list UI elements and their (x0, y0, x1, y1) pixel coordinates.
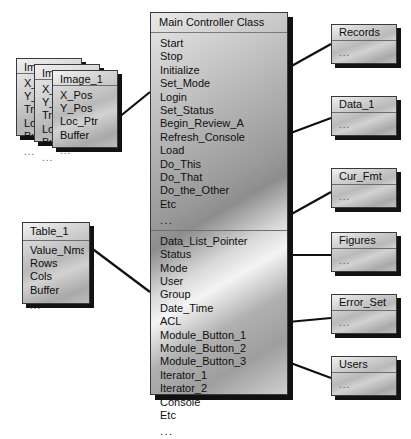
method-item: Etc (160, 198, 281, 211)
attribute-item: User (160, 275, 281, 288)
field-ellipsis: ... (30, 297, 84, 312)
table-1-title: Table_1 (23, 223, 89, 241)
attribute-item: Data_List_Pointer (160, 235, 281, 248)
main-class-attributes-section: Data_List_Pointer Status Mode User Group… (151, 231, 287, 439)
connector-main-to-error-set (288, 318, 331, 322)
users-title: Users (332, 357, 396, 373)
field-item: X_Pos (60, 89, 112, 102)
field-item: Value_Nms (30, 244, 84, 257)
attribute-item: Etc (160, 409, 281, 422)
figures-body: ... (332, 249, 396, 271)
method-item: Set_Mode (160, 77, 281, 90)
data-1-title: Data_1 (332, 97, 396, 113)
figures-class-box[interactable]: Figures ... (331, 232, 397, 272)
table-1-fields: Value_Nms Rows Cols Buffer ... (23, 241, 89, 314)
table-1-class-box[interactable]: Table_1 Value_Nms Rows Cols Buffer ... (22, 222, 90, 304)
image-1-fields: X_Pos Y_Pos Loc_Ptr Buffer ... (53, 86, 117, 159)
method-item: Stop (160, 50, 281, 63)
attribute-item: ACL (160, 315, 281, 328)
data-1-class-box[interactable]: Data_1 ... (331, 96, 397, 136)
users-body: ... (332, 373, 396, 395)
attribute-item: Module_Button_3 (160, 355, 281, 368)
error-set-class-box[interactable]: Error_Set ... (331, 294, 397, 334)
field-item: Rows (30, 257, 84, 270)
cur-fmt-ellipsis: ... (339, 188, 391, 203)
users-class-box[interactable]: Users ... (331, 356, 397, 396)
field-item: Y_Pos (60, 102, 112, 115)
figures-title: Figures (332, 233, 396, 249)
attribute-item: Iterator_2 (160, 382, 281, 395)
error-set-body: ... (332, 311, 396, 333)
attribute-item: Date_Time (160, 302, 281, 315)
connector-image-to-main (118, 92, 150, 118)
method-item: Do_That (160, 171, 281, 184)
cur-fmt-title: Cur_Fmt (332, 169, 396, 185)
method-item: Set_Status (160, 104, 281, 117)
method-item: Begin_Review_A (160, 117, 281, 130)
method-item: Load (160, 144, 281, 157)
method-item: Refresh_Console (160, 131, 281, 144)
method-item: Initialize (160, 64, 281, 77)
image-1-title: Image_1 (53, 71, 117, 86)
attribute-item: Module_Button_1 (160, 329, 281, 342)
cur-fmt-body: ... (332, 185, 396, 207)
method-item: Login (160, 91, 281, 104)
users-ellipsis: ... (339, 376, 391, 391)
data-1-ellipsis: ... (339, 116, 391, 131)
method-item: Start (160, 37, 281, 50)
data-1-body: ... (332, 113, 396, 135)
cur-fmt-class-box[interactable]: Cur_Fmt ... (331, 168, 397, 208)
records-ellipsis: ... (339, 44, 391, 59)
connector-main-to-cur-fmt (288, 192, 331, 216)
figures-ellipsis: ... (339, 252, 391, 267)
records-title: Records (332, 25, 396, 41)
field-item: Buffer (30, 284, 84, 297)
error-set-title: Error_Set (332, 295, 396, 311)
method-item: Do_the_Other (160, 184, 281, 197)
attribute-item: Iterator_1 (160, 369, 281, 382)
field-item: Loc_Ptr (60, 115, 112, 128)
attribute-item: Status (160, 248, 281, 261)
connector-table-to-main (90, 247, 150, 292)
main-controller-class-box[interactable]: Main Controller Class Start Stop Initial… (150, 12, 288, 395)
main-class-title: Main Controller Class (151, 13, 287, 33)
attribute-item: Console (160, 396, 281, 409)
connector-main-to-data-1 (288, 118, 331, 134)
attribute-item: Mode (160, 262, 281, 275)
field-item: Cols (30, 270, 84, 283)
records-class-box[interactable]: Records ... (331, 24, 397, 64)
field-item: Buffer (60, 129, 112, 142)
connector-main-to-users (288, 362, 331, 378)
main-class-methods-section: Start Stop Initialize Set_Mode Login Set… (151, 33, 287, 230)
records-body: ... (332, 41, 396, 63)
error-set-ellipsis: ... (339, 314, 391, 329)
attribute-item: Group (160, 288, 281, 301)
attributes-ellipsis: ... (160, 422, 281, 438)
attribute-item: Module_Button_2 (160, 342, 281, 355)
methods-ellipsis: ... (160, 211, 281, 227)
connector-main-to-records (288, 44, 331, 68)
method-item: Do_This (160, 158, 281, 171)
image-1-class-box[interactable]: Image_1 X_Pos Y_Pos Loc_Ptr Buffer ... (52, 70, 118, 148)
field-ellipsis: ... (60, 142, 112, 157)
